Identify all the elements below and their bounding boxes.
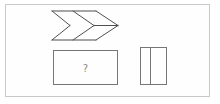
double-chevron-shape <box>51 10 119 41</box>
puzzle-canvas: { "panel": { "background": "#fefefe", "f… <box>0 0 220 104</box>
question-rectangle: ? <box>53 50 118 85</box>
vertical-divider-line <box>150 48 152 84</box>
double-chevron-icon <box>51 10 119 41</box>
question-mark-label: ? <box>83 64 88 74</box>
divided-rectangle <box>140 47 167 85</box>
